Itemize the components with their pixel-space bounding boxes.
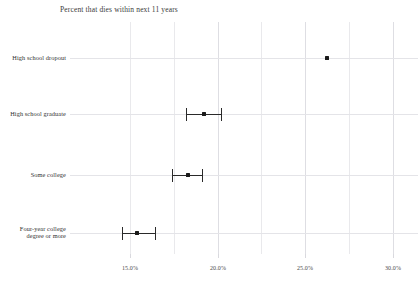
chart-figure: Percent that dies within next 11 years H… [0,0,418,286]
data-point-high-school-graduate [202,112,206,116]
gridline-27-5 [349,22,350,254]
x-tick-mark [393,254,394,258]
x-tick-label-20: 20.0% [198,265,238,271]
x-axis: 15.0% 20.0% 25.0% 30.0% [0,254,418,286]
category-label-some-college: Some college [31,171,66,178]
page-title: Percent that dies within next 11 years [60,5,178,14]
x-tick-label-30: 30.0% [373,265,413,271]
category-label-line: Four-year college [20,225,66,232]
x-tick-label-15: 15.0% [110,265,150,271]
gridline-17-5 [174,22,175,254]
x-tick-label-25: 25.0% [285,265,325,271]
category-baseline [70,58,418,59]
category-label-high-school-dropout: High school dropout [12,54,66,61]
error-bar-cap-high [155,227,156,240]
category-baseline [70,114,418,115]
x-tick-mark [218,254,219,258]
error-bar-cap-low [122,227,123,240]
data-point-some-college [186,173,190,177]
gridline-15-0 [130,22,131,254]
gridline-25-0 [305,22,306,254]
x-tick-mark [130,254,131,258]
error-bar-cap-high [221,108,222,121]
category-baseline [70,175,418,176]
category-label-line: degree or more [20,232,66,239]
error-bar-cap-low [186,108,187,121]
gridline-30-0 [393,22,394,254]
category-label-high-school-graduate: High school graduate [10,110,66,117]
error-bar-cap-high [202,169,203,182]
category-label-line: High school dropout [12,54,66,61]
category-label-line: Some college [31,171,66,178]
plot-area: High school dropout High school graduate… [0,22,418,254]
gridline-22-5 [261,22,262,254]
error-bar-cap-low [172,169,173,182]
gridline-20-0 [218,22,219,254]
data-point-four-year-college [135,231,139,235]
data-point-high-school-dropout [325,56,329,60]
category-label-four-year-college: Four-year college degree or more [20,225,66,240]
category-label-line: High school graduate [10,110,66,117]
x-tick-mark [305,254,306,258]
